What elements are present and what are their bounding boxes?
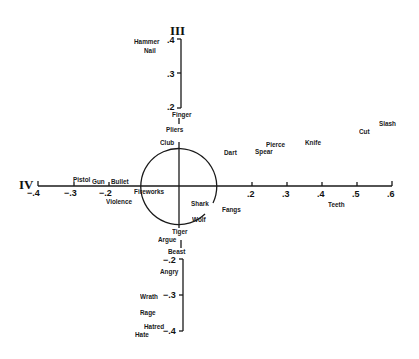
tick-lower-neg-0.4: −.4 [163, 327, 176, 336]
word-club: Club [160, 139, 174, 147]
word-pliers: Pliers [166, 126, 183, 134]
tick-x-0.3: .3 [282, 190, 290, 199]
tick-upper-0.3: .3 [167, 70, 175, 79]
word-hate: Hate [135, 331, 149, 339]
word-cut: Cut [359, 128, 370, 136]
tick-lower-neg-0.2: −.2 [163, 256, 176, 265]
word-pistol: Pistol [73, 176, 90, 184]
tick-upper-0.4: .4 [167, 36, 175, 45]
word-slash: Slash [379, 120, 396, 128]
tick-x-0.5: .5 [352, 190, 360, 199]
word-wrath: Wrath [140, 293, 158, 301]
word-gun: Gun [92, 178, 105, 186]
word-teeth: Teeth [328, 201, 345, 209]
word-nail: Nail [144, 47, 156, 55]
word-pierce: Pierce [266, 141, 285, 149]
semantic-factor-diagram: III IV .4 .3 .2 −.4 −.3 −.2 .2 .3 .4 .5 … [0, 0, 419, 359]
word-rage: Rage [140, 309, 156, 317]
word-fangs: Fangs [222, 206, 241, 214]
word-shark: Shark [191, 200, 209, 208]
word-angry: Angry [160, 268, 178, 276]
tick-x-neg-0.3: −.3 [64, 189, 77, 198]
tick-x-neg-0.4: −.4 [27, 189, 40, 198]
word-argue: Argue [158, 236, 176, 244]
word-finger: Finger [172, 111, 191, 119]
word-dart: Dart [224, 149, 237, 157]
word-knife: Knife [305, 139, 321, 147]
word-bullet: Bullet [111, 178, 129, 186]
word-spear: Spear [255, 148, 273, 156]
word-violence: Violence [106, 198, 132, 206]
word-beast: Beast [168, 248, 185, 256]
axes-and-circle [0, 0, 419, 359]
tick-x-0.4: .4 [317, 190, 325, 199]
tick-lower-neg-0.3: −.3 [163, 291, 176, 300]
tick-x-0.2: .2 [247, 190, 255, 199]
word-hammer: Hammer [134, 38, 160, 46]
tick-x-0.6: .6 [387, 190, 395, 199]
word-fireworks: Fireworks [134, 188, 164, 196]
word-wolf: Wolf [192, 216, 206, 224]
